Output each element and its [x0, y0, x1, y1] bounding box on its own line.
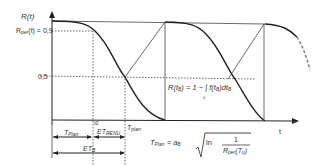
etrenu-sub: RENU: [106, 130, 120, 136]
renewal-diagonal-2: [228, 24, 264, 79]
arrowhead-icon: [53, 135, 58, 139]
tplan-mid-sub: plan: [131, 126, 140, 132]
etb-label: ETB: [83, 145, 95, 153]
tplan-formula-numerator: 1: [234, 136, 238, 143]
arrowhead-icon: [120, 135, 125, 139]
t0-label: t0: [94, 121, 98, 126]
den-close: ): [245, 147, 247, 154]
formula-r: R(t: [168, 83, 178, 92]
formula-dt-sub: B: [228, 86, 231, 92]
x-axis-arrow-icon: [292, 118, 299, 124]
reliability-curve-2: [165, 22, 265, 121]
reliability-curve-1: [52, 21, 165, 120]
reliability-curve-3: [265, 24, 297, 37]
renewal-diagonal-1: [125, 22, 165, 77]
formula-dt: )dt: [219, 83, 228, 92]
etrenu-et: ET: [97, 128, 106, 135]
arrowhead-icon: [53, 151, 58, 155]
tplan-formula-sub: Plan: [155, 141, 165, 147]
x-axis-label: t: [279, 128, 281, 135]
x-axis: [52, 120, 296, 121]
reliability-formula: R(tB) = 1 − ∫ f(tB)dtB: [168, 84, 231, 92]
r05-label: 0,5: [38, 73, 48, 80]
y-axis-label: R(t): [21, 13, 34, 21]
tplan-formula-a-sub: B: [177, 141, 180, 147]
arrowhead-icon: [120, 151, 125, 155]
etb-et: ET: [83, 145, 92, 152]
reliability-curve-future: [297, 37, 310, 70]
arrowhead-icon: [87, 135, 92, 139]
r09-label-rest: (t) = 0,9: [28, 27, 52, 34]
tplan-formula-ln: ln: [206, 139, 212, 147]
y-axis-arrow-icon: [49, 11, 55, 18]
integral-lower-limit: 0: [203, 96, 205, 100]
etrenu-label: ETRENU: [97, 128, 120, 136]
r05-dotted-line: [40, 76, 255, 79]
tplan-left-label: TPlan: [64, 129, 78, 137]
tplan-formula-eq: = a: [165, 138, 178, 147]
tplan-left-sub: Plan: [68, 131, 78, 137]
etb-sub: B: [92, 147, 95, 153]
formula-integral: ) = 1 − ∫ f(t: [181, 83, 216, 92]
tplan-formula: TPlan = aB: [150, 139, 181, 147]
tplan-mid-label: Tplan: [127, 124, 141, 132]
den-arg: (T: [235, 147, 242, 154]
tplan-formula-denominator: Rper(Tu): [223, 147, 247, 155]
r09-label: Rper(t) = 0,9: [16, 27, 53, 35]
